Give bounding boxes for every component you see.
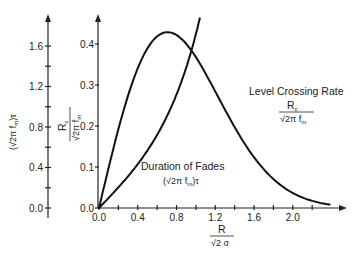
svg-text:0.2: 0.2 — [80, 121, 94, 132]
svg-text:2.0: 2.0 — [286, 212, 300, 223]
svg-text:1.2: 1.2 — [208, 212, 222, 223]
chart: 0.00.40.81.21.6 0.00.10.20.30.4 0.00.40.… — [0, 0, 359, 260]
x-label-numerator: R — [218, 223, 226, 235]
svg-text:√2π fm: √2π fm — [71, 115, 82, 141]
right-y-axis-label: Rc √2π fm — [56, 107, 82, 141]
x-axis-label: R √2 σ — [210, 223, 234, 248]
x-axis: 0.00.40.81.21.62.0 — [92, 205, 347, 223]
svg-text:(√2π fm)τ: (√2π fm)τ — [8, 114, 19, 150]
dof-formula: (√2π fm)τ — [163, 176, 199, 187]
svg-text:0.4: 0.4 — [29, 162, 43, 173]
svg-text:1.6: 1.6 — [247, 212, 261, 223]
svg-text:0.3: 0.3 — [80, 80, 94, 91]
right-y-axis: 0.00.10.20.30.4 — [80, 14, 101, 214]
lcr-title: Level Crossing Rate — [249, 85, 344, 97]
dof-title: Duration of Fades — [141, 160, 224, 172]
svg-text:Rc: Rc — [56, 120, 69, 131]
svg-text:0.4: 0.4 — [131, 212, 145, 223]
x-label-denominator: √2 σ — [211, 238, 229, 248]
svg-text:0.8: 0.8 — [170, 212, 184, 223]
duration-of-fades-annotation: Duration of Fades (√2π fm)τ — [141, 160, 224, 187]
svg-text:0.1: 0.1 — [80, 162, 94, 173]
plot-area: 0.00.40.81.21.6 0.00.10.20.30.4 0.00.40.… — [0, 0, 359, 260]
svg-text:0.0: 0.0 — [92, 212, 106, 223]
svg-text:1.6: 1.6 — [29, 41, 43, 52]
level-crossing-rate-annotation: Level Crossing Rate Rc √2π fm — [249, 85, 344, 125]
svg-text:1.2: 1.2 — [29, 81, 43, 92]
lcr-denominator: √2π fm — [280, 114, 306, 125]
svg-text:0.0: 0.0 — [29, 203, 43, 214]
left-y-axis-label: (√2π fm)τ — [8, 114, 19, 150]
svg-text:0.8: 0.8 — [29, 122, 43, 133]
svg-text:0.4: 0.4 — [80, 39, 94, 50]
lcr-numerator: Rc — [287, 99, 298, 112]
left-y-axis: 0.00.40.81.21.6 — [29, 14, 51, 218]
